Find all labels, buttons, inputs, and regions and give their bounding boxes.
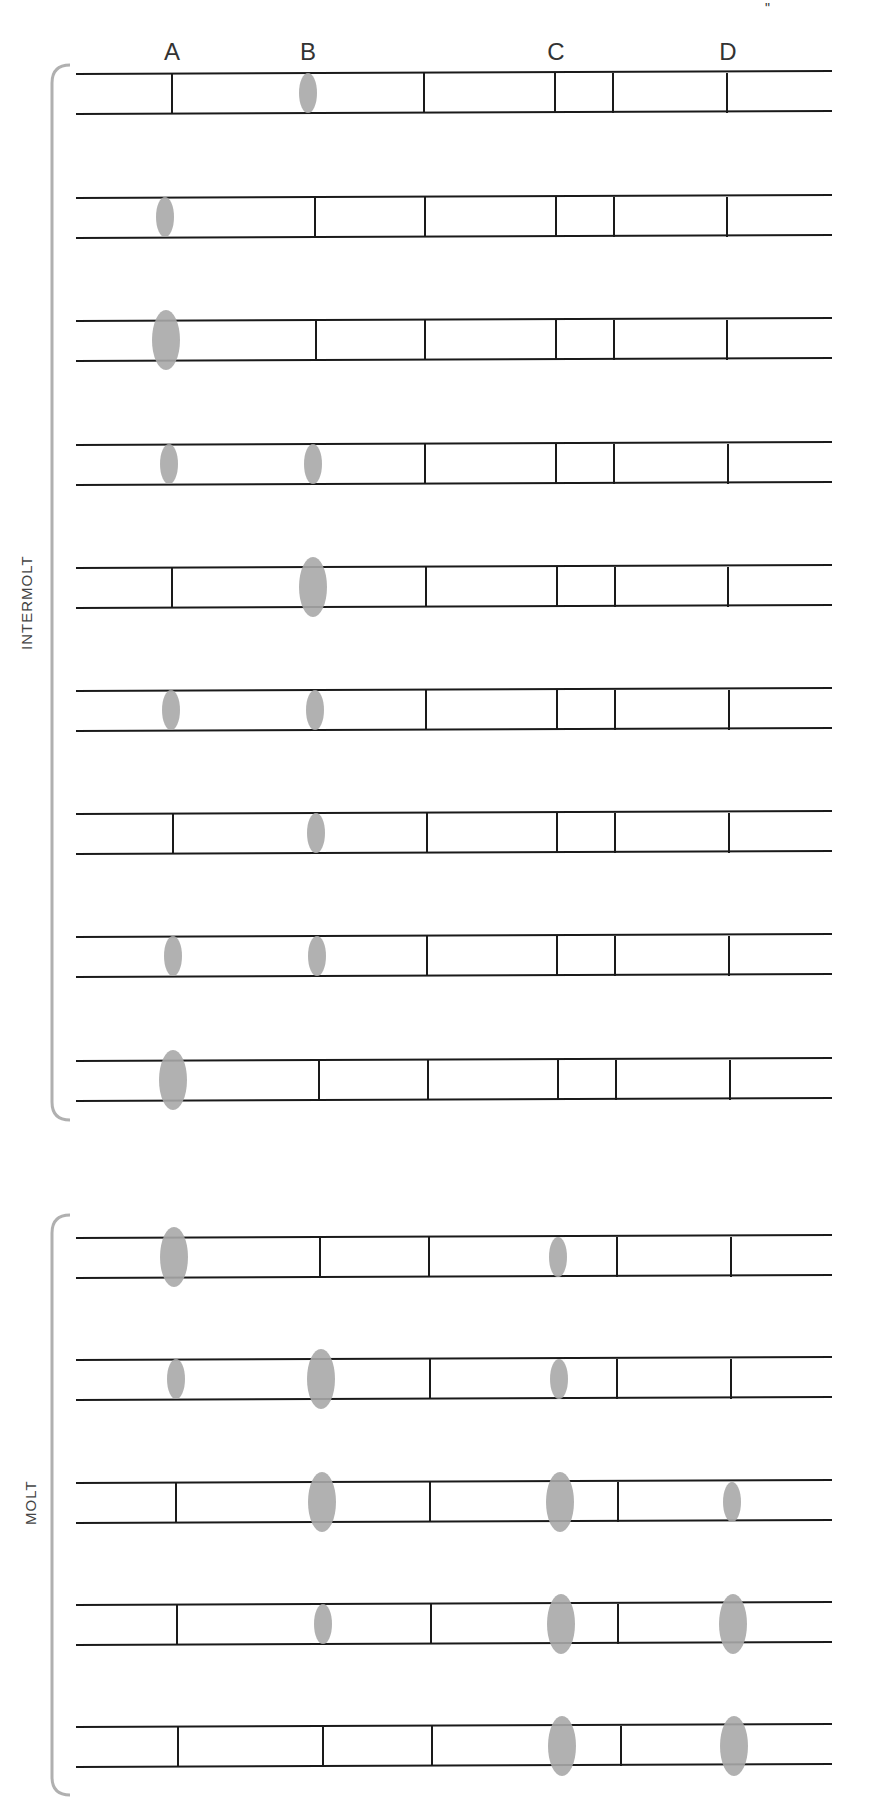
strip-bottom-line bbox=[76, 235, 832, 238]
strip-bottom-line bbox=[76, 1520, 832, 1523]
spot-m bbox=[308, 936, 326, 976]
spot-m bbox=[304, 444, 322, 484]
strip-bottom-line bbox=[76, 1098, 832, 1101]
strip-top-line bbox=[76, 1235, 832, 1238]
spot-m bbox=[723, 1482, 741, 1522]
spot-l bbox=[307, 1349, 335, 1409]
strip-top-line bbox=[76, 688, 832, 691]
strip-top-line bbox=[76, 934, 832, 937]
strip-bottom-line bbox=[76, 1642, 832, 1645]
strip-top-line bbox=[76, 1480, 832, 1483]
spot-l bbox=[308, 1472, 336, 1532]
strip-diagram bbox=[0, 0, 887, 1808]
spot-m bbox=[156, 197, 174, 237]
spot-l bbox=[548, 1716, 576, 1776]
strip-bottom-line bbox=[76, 482, 832, 485]
strip-top-line bbox=[76, 1058, 832, 1061]
strip-bottom-line bbox=[76, 1275, 832, 1278]
strip-bottom-line bbox=[76, 728, 832, 731]
spot-m bbox=[306, 690, 324, 730]
spot-m bbox=[160, 444, 178, 484]
spot-m bbox=[549, 1237, 567, 1277]
spot-m bbox=[299, 73, 317, 113]
spot-m bbox=[162, 690, 180, 730]
strip-bottom-line bbox=[76, 1397, 832, 1400]
spot-m bbox=[164, 936, 182, 976]
spot-l bbox=[719, 1594, 747, 1654]
strip-top-line bbox=[76, 1724, 832, 1727]
group-bracket-molt bbox=[52, 1215, 70, 1795]
spot-l bbox=[152, 310, 180, 370]
strip-bottom-line bbox=[76, 851, 832, 854]
strip-top-line bbox=[76, 318, 832, 321]
strip-top-line bbox=[76, 71, 832, 74]
spot-m bbox=[314, 1604, 332, 1644]
strip-top-line bbox=[76, 1357, 832, 1360]
spot-m bbox=[167, 1359, 185, 1399]
strip-top-line bbox=[76, 1602, 832, 1605]
strip-bottom-line bbox=[76, 1764, 832, 1767]
spot-l bbox=[299, 557, 327, 617]
strip-top-line bbox=[76, 565, 832, 568]
strip-bottom-line bbox=[76, 111, 832, 114]
spot-l bbox=[720, 1716, 748, 1776]
strip-top-line bbox=[76, 811, 832, 814]
spot-l bbox=[546, 1472, 574, 1532]
group-bracket-intermolt bbox=[52, 65, 70, 1120]
spot-m bbox=[307, 813, 325, 853]
strip-top-line bbox=[76, 195, 832, 198]
spot-l bbox=[159, 1050, 187, 1110]
strip-bottom-line bbox=[76, 974, 832, 977]
spot-m bbox=[550, 1359, 568, 1399]
strip-bottom-line bbox=[76, 358, 832, 361]
strip-top-line bbox=[76, 442, 832, 445]
strip-bottom-line bbox=[76, 605, 832, 608]
spot-l bbox=[547, 1594, 575, 1654]
spot-l bbox=[160, 1227, 188, 1287]
